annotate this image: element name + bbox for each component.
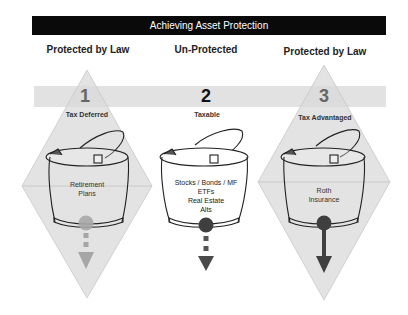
leak-arrow-dashed-dark-icon — [198, 218, 214, 272]
content-line: Real Estate — [166, 196, 246, 205]
category-label-1: Tax Deferred — [42, 111, 132, 118]
bucket-number-1: 1 — [65, 86, 105, 107]
bucket-contents-2: Stocks / Bonds / MF ETFs Real Estate Alt… — [166, 178, 246, 214]
bucket-contents-1: Retirement Plans — [47, 180, 127, 198]
bucket-number-2: 2 — [186, 86, 226, 107]
content-line: Roth — [284, 186, 364, 195]
content-line: Alts — [166, 205, 246, 214]
content-line: Retirement — [47, 180, 127, 189]
content-line: Plans — [47, 189, 127, 198]
content-line: Stocks / Bonds / MF — [166, 178, 246, 187]
bucket-number-3: 3 — [304, 86, 344, 107]
content-line: ETFs — [166, 187, 246, 196]
category-label-2: Taxable — [162, 111, 252, 118]
bucket-contents-3: Roth Insurance — [284, 186, 364, 204]
content-line: Insurance — [284, 195, 364, 204]
category-label-3: Tax Advantaged — [280, 114, 370, 121]
